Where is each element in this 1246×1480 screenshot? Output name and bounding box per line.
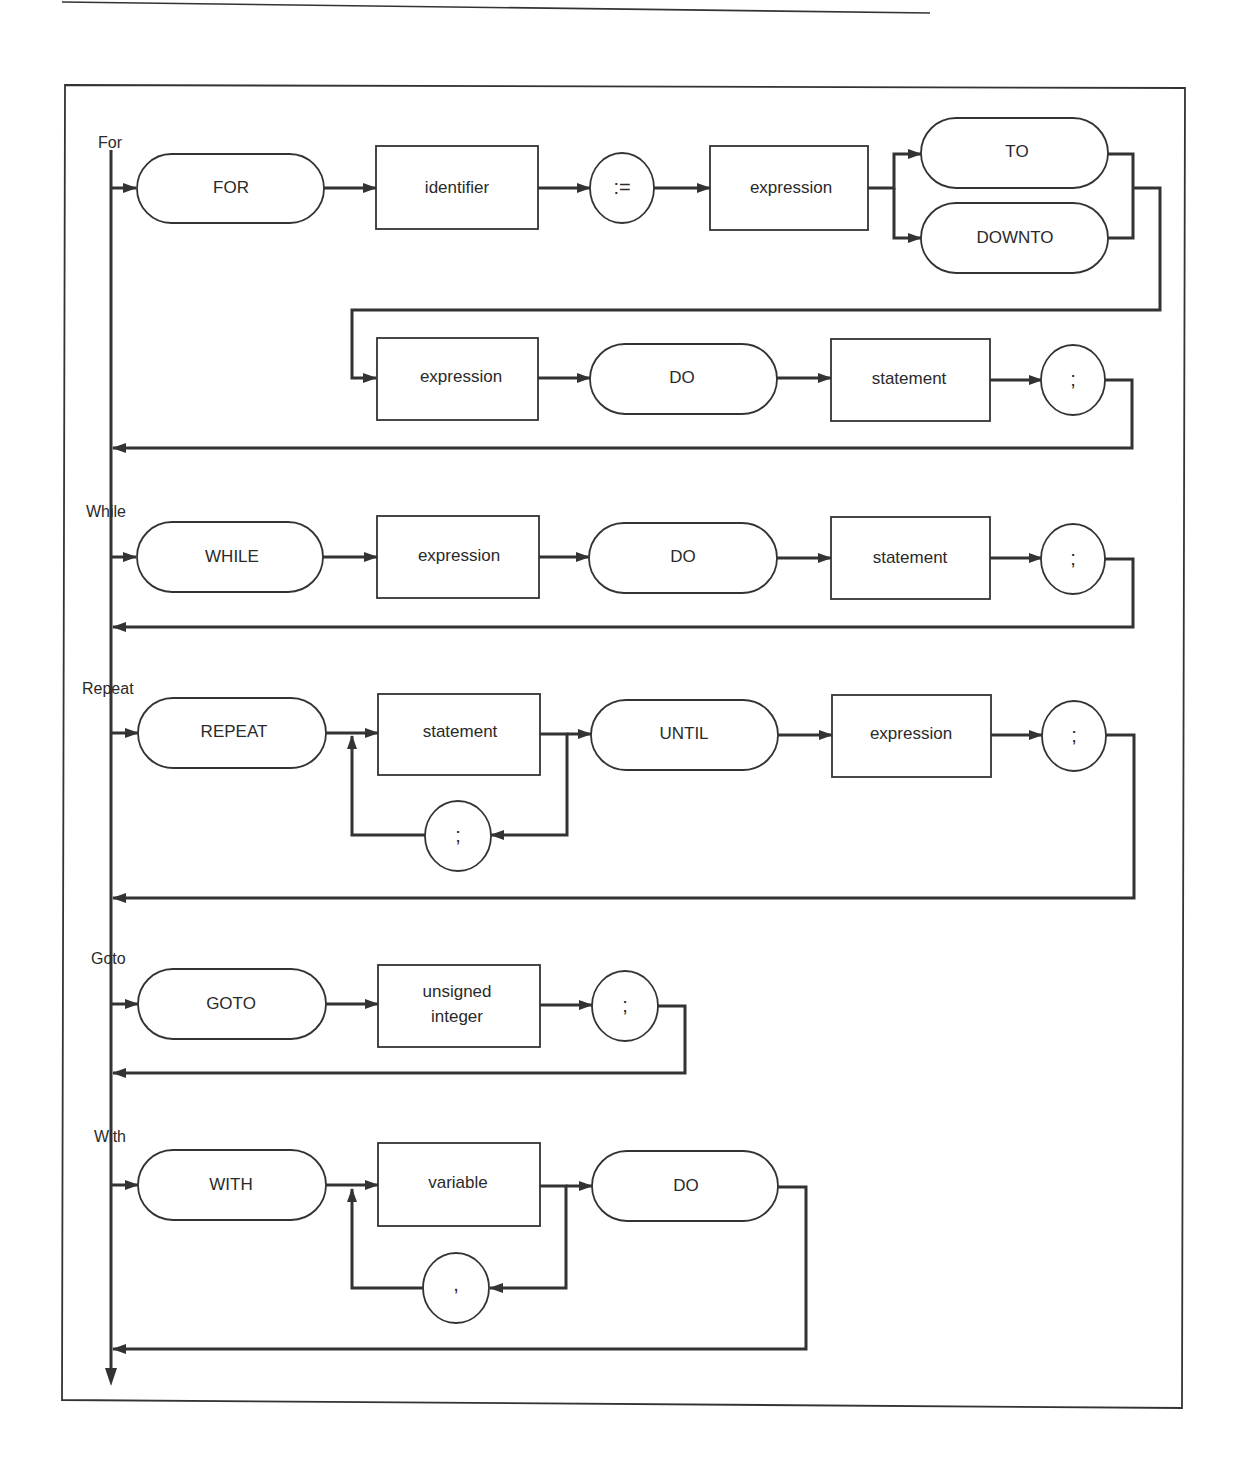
- syntax-diagram: For FOR identifier := expression TO DOWN…: [0, 0, 1246, 1480]
- semicolon-text-goto: ;: [622, 994, 628, 1016]
- section-label-for: For: [98, 134, 123, 151]
- do-keyword-text-while: DO: [670, 547, 696, 566]
- expression-text-repeat: expression: [870, 724, 952, 743]
- expression-text-1: expression: [750, 178, 832, 197]
- until-keyword-text: UNTIL: [659, 724, 708, 743]
- section-with: With WITH variable , DO: [94, 1128, 806, 1349]
- section-repeat: Repeat REPEAT statement ; UNTIL expressi…: [82, 680, 1134, 898]
- section-label-goto: Goto: [91, 950, 126, 967]
- semicolon-text-for: ;: [1070, 368, 1076, 390]
- repeat-keyword-text: REPEAT: [201, 722, 268, 741]
- exit-arrow-icon: [105, 1368, 117, 1386]
- unsigned-integer-text-line2: integer: [431, 1007, 483, 1026]
- top-rule: [62, 2, 930, 13]
- statement-text-repeat: statement: [423, 722, 498, 741]
- with-keyword-text: WITH: [209, 1175, 252, 1194]
- do-keyword-text-with: DO: [673, 1176, 699, 1195]
- loop-comma-text-with: ,: [453, 1273, 459, 1295]
- expression-text-while: expression: [418, 546, 500, 565]
- statement-text-while: statement: [873, 548, 948, 567]
- unsigned-integer-text-line1: unsigned: [422, 982, 491, 1001]
- semicolon-text-while: ;: [1070, 547, 1076, 569]
- semicolon-text-repeat: ;: [1071, 724, 1077, 746]
- statement-text-for: statement: [872, 369, 947, 388]
- section-label-with: With: [94, 1128, 126, 1145]
- expression-text-2: expression: [420, 367, 502, 386]
- section-label-repeat: Repeat: [82, 680, 134, 697]
- loop-semicolon-text-repeat: ;: [455, 824, 461, 846]
- do-keyword-text-for: DO: [669, 368, 695, 387]
- assign-symbol-text: :=: [613, 176, 630, 198]
- goto-keyword-text: GOTO: [206, 994, 256, 1013]
- section-for: For FOR identifier := expression TO DOWN…: [98, 118, 1160, 448]
- section-goto: Goto GOTO unsigned integer ;: [91, 950, 685, 1073]
- identifier-text: identifier: [425, 178, 490, 197]
- unsigned-integer-node: [378, 965, 540, 1047]
- for-keyword-text: FOR: [213, 178, 249, 197]
- while-keyword-text: WHILE: [205, 547, 259, 566]
- variable-text: variable: [428, 1173, 488, 1192]
- to-keyword-text: TO: [1005, 142, 1028, 161]
- downto-keyword-text: DOWNTO: [976, 228, 1053, 247]
- section-while: While WHILE expression DO statement ;: [86, 503, 1133, 627]
- section-label-while: While: [86, 503, 126, 520]
